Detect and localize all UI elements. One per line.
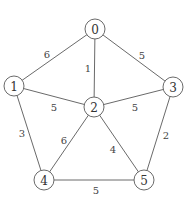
node-label: 1 bbox=[10, 80, 18, 94]
node-1: 1 bbox=[4, 76, 24, 96]
edge-weight-0-2: 1 bbox=[85, 63, 91, 74]
node-2: 2 bbox=[84, 97, 104, 117]
weighted-graph: 6155536425 012345 bbox=[0, 0, 195, 203]
edge-0-1 bbox=[14, 29, 95, 86]
edge-0-3 bbox=[95, 29, 173, 87]
edge-weight-1-4: 3 bbox=[19, 128, 25, 139]
edge-weight-4-5: 5 bbox=[93, 185, 99, 196]
edge-weight-2-4: 6 bbox=[61, 135, 67, 146]
edge-weight-3-5: 2 bbox=[163, 130, 169, 141]
node-0: 0 bbox=[85, 19, 105, 39]
edge-weight-0-3: 5 bbox=[139, 50, 145, 61]
node-label: 0 bbox=[91, 23, 99, 37]
node-label: 3 bbox=[169, 81, 177, 95]
node-4: 4 bbox=[34, 170, 54, 190]
node-3: 3 bbox=[163, 77, 183, 97]
edge-2-4 bbox=[44, 107, 94, 180]
nodes: 012345 bbox=[4, 19, 183, 190]
edge-weight-2-5: 4 bbox=[110, 144, 116, 155]
edge-weight-2-3: 5 bbox=[132, 102, 138, 113]
node-5: 5 bbox=[134, 170, 154, 190]
node-label: 4 bbox=[40, 174, 48, 188]
edge-0-2 bbox=[94, 29, 95, 107]
node-label: 2 bbox=[90, 101, 98, 115]
edge-2-5 bbox=[94, 107, 144, 180]
edge-weight-0-1: 6 bbox=[44, 49, 50, 60]
edge-weight-1-2: 5 bbox=[51, 102, 57, 113]
node-label: 5 bbox=[140, 174, 148, 188]
